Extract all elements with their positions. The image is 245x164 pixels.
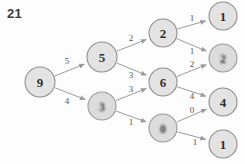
- node-value-label: 5: [99, 50, 106, 65]
- graph-edge: [55, 88, 85, 100]
- graph-edge: [55, 64, 85, 76]
- graph-edge: [177, 132, 205, 139]
- node-value-label: 2: [160, 26, 167, 41]
- edge-weight-label: 1: [190, 46, 195, 56]
- graph-node[interactable]: 1: [209, 130, 237, 158]
- diagram-canvas: 21 542331112401 9532601241: [0, 0, 245, 164]
- edge-weight-label: 4: [190, 91, 195, 101]
- graph-node[interactable]: 3: [88, 92, 116, 120]
- edge-weight-label: 4: [65, 96, 70, 106]
- edge-weight-label: 1: [193, 137, 198, 147]
- edge-weight-label: 3: [129, 70, 134, 80]
- edge-weight-label: 1: [190, 13, 195, 23]
- graph-node[interactable]: 2: [209, 44, 237, 72]
- graph-node[interactable]: 2: [149, 19, 177, 47]
- graph-node[interactable]: 9: [25, 67, 55, 97]
- node-value-label: 2: [220, 52, 226, 66]
- graph-node[interactable]: 0: [149, 114, 177, 142]
- edge-weight-label: 2: [190, 59, 195, 69]
- edge-weight-label: 2: [129, 33, 134, 43]
- node-value-label: 3: [99, 100, 105, 114]
- edge-weight-label: 0: [190, 105, 195, 115]
- node-value-label: 0: [160, 122, 166, 136]
- edge-weight-label: 3: [129, 84, 134, 94]
- graph-node[interactable]: 5: [87, 42, 117, 72]
- graph-node[interactable]: 1: [209, 2, 237, 30]
- node-value-label: 9: [37, 75, 44, 90]
- edge-weight-label: 5: [65, 56, 70, 66]
- game-tree-graph: 542331112401 9532601241: [0, 0, 245, 164]
- graph-node[interactable]: 4: [209, 88, 237, 116]
- edge-weight-label: 1: [129, 117, 134, 127]
- graph-node[interactable]: 6: [149, 68, 177, 96]
- node-value-label: 4: [220, 95, 227, 110]
- node-value-label: 1: [220, 9, 227, 24]
- nodes-layer: 9532601241: [25, 2, 237, 158]
- node-value-label: 1: [220, 137, 227, 152]
- node-value-label: 6: [160, 75, 167, 90]
